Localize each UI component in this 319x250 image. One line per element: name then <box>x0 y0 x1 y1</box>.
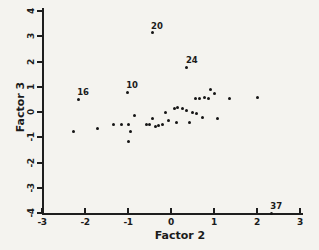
y-tick-mark <box>37 10 42 12</box>
data-point <box>127 140 130 143</box>
x-tick-mark <box>127 208 129 213</box>
x-tick-label: 1 <box>211 217 217 227</box>
y-tick-mark <box>37 35 42 37</box>
data-point-label: 24 <box>186 55 198 65</box>
data-point-label: 20 <box>151 21 163 31</box>
y-tick-mark <box>37 212 42 214</box>
x-tick-mark <box>213 208 215 213</box>
y-axis-line <box>42 8 44 215</box>
x-axis-line <box>42 213 303 215</box>
data-point <box>201 116 204 119</box>
x-tick-mark <box>256 208 258 213</box>
data-point <box>175 121 178 124</box>
data-point <box>127 123 130 126</box>
x-tick-mark <box>299 208 301 213</box>
y-tick-label: -2 <box>26 158 36 167</box>
data-point <box>126 91 129 94</box>
data-point <box>161 123 164 126</box>
y-tick-label: -4 <box>26 209 36 218</box>
y-tick-label: 3 <box>26 33 36 39</box>
x-tick-mark <box>84 208 86 213</box>
y-tick-label: 2 <box>26 59 36 65</box>
x-tick-label: 2 <box>254 217 260 227</box>
y-tick-mark <box>37 61 42 63</box>
data-point <box>96 127 99 130</box>
x-axis-title: Factor 2 <box>155 229 206 242</box>
data-point <box>195 112 198 115</box>
y-tick-mark <box>37 187 42 189</box>
data-point <box>72 130 75 133</box>
scatter-plot-figure: -3-2-1012343210-1-2-3-4 1610202437 Facto… <box>0 0 319 250</box>
data-point <box>188 121 191 124</box>
data-point <box>203 96 206 99</box>
data-point <box>133 114 136 117</box>
data-point <box>157 124 160 127</box>
data-point <box>228 97 231 100</box>
data-point-label: 10 <box>126 80 138 90</box>
data-point <box>207 97 210 100</box>
x-tick-label: -3 <box>38 217 47 227</box>
data-point <box>151 31 154 34</box>
y-tick-label: 4 <box>26 8 36 14</box>
data-point <box>173 107 176 110</box>
data-point <box>151 117 154 120</box>
data-point <box>145 123 148 126</box>
data-point <box>148 123 151 126</box>
data-point <box>77 98 80 101</box>
y-tick-mark <box>37 86 42 88</box>
data-point <box>167 119 170 122</box>
data-point <box>256 96 259 99</box>
y-tick-mark <box>37 136 42 138</box>
data-point <box>181 107 184 110</box>
y-tick-label: 0 <box>26 109 36 115</box>
data-point-label: 37 <box>270 201 282 211</box>
x-tick-label: -1 <box>124 217 133 227</box>
data-point <box>216 117 219 120</box>
data-point <box>209 88 212 91</box>
data-point <box>154 125 157 128</box>
data-point-label: 16 <box>77 87 89 97</box>
data-point <box>194 97 197 100</box>
data-point <box>176 106 179 109</box>
x-tick-label: 3 <box>297 217 303 227</box>
data-point <box>270 212 273 215</box>
data-point <box>185 66 188 69</box>
y-tick-label: -1 <box>26 133 36 142</box>
data-point <box>164 111 167 114</box>
y-tick-mark <box>37 162 42 164</box>
y-axis-title: Factor 3 <box>14 82 27 133</box>
y-tick-label: 1 <box>26 84 36 90</box>
data-point <box>191 111 194 114</box>
data-point <box>185 109 188 112</box>
data-point <box>198 97 201 100</box>
y-tick-mark <box>37 111 42 113</box>
x-tick-label: 0 <box>168 217 174 227</box>
data-point <box>129 130 132 133</box>
x-tick-mark <box>170 208 172 213</box>
data-point <box>120 123 123 126</box>
y-tick-label: -3 <box>26 183 36 192</box>
x-tick-label: -2 <box>81 217 90 227</box>
data-point <box>213 92 216 95</box>
data-point <box>112 123 115 126</box>
